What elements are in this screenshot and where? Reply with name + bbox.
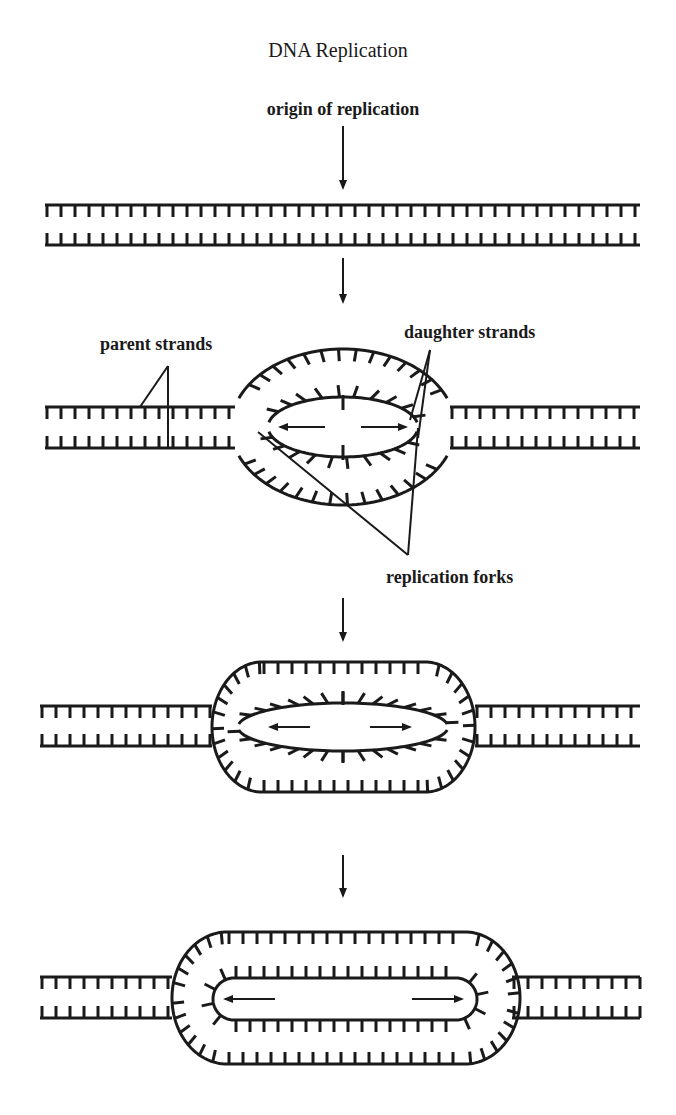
stage-replication-bubble-large — [40, 932, 640, 1064]
replication-forks-label: replication forks — [386, 567, 513, 587]
diagram-title: DNA Replication — [268, 39, 407, 62]
daughter-strands-label: daughter strands — [404, 322, 535, 342]
daughter-strands-pointer — [410, 350, 430, 438]
dna-replication-diagram: DNA Replication origin of replication pa… — [0, 0, 676, 1115]
parent-strands-label: parent strands — [100, 334, 212, 354]
origin-label: origin of replication — [267, 99, 420, 119]
stage-replication-bubble-medium — [40, 662, 640, 792]
stage-unreplicated-dna — [45, 205, 640, 245]
stage-replication-bubble-small — [45, 349, 640, 505]
